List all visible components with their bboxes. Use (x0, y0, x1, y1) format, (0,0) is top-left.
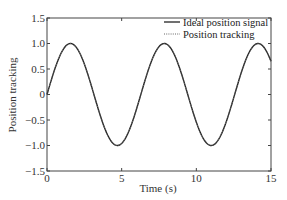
y-axis-label: Position tracking (6, 57, 18, 132)
plot-border (47, 18, 271, 171)
x-tick-label: 0 (44, 172, 50, 184)
x-tick-label: 10 (191, 172, 203, 184)
legend-label-tracking: Position tracking (183, 29, 255, 40)
y-tick-label: −1.5 (25, 165, 45, 177)
y-tick-label: 0 (40, 88, 46, 100)
legend-label-ideal: Ideal position signal (183, 17, 268, 28)
legend: Ideal position signal Position tracking (164, 17, 268, 40)
y-tick-label: 0.5 (31, 63, 45, 75)
y-tick-label: −0.5 (25, 114, 45, 126)
x-axis-ticks: 051015 (44, 18, 277, 184)
ideal-position-line (47, 44, 271, 146)
y-tick-label: −1.0 (25, 139, 45, 151)
series-lines (47, 44, 271, 146)
x-axis-label: Time (s) (139, 182, 177, 195)
position-tracking-line (47, 44, 271, 146)
y-tick-label: 1.5 (31, 12, 45, 24)
position-tracking-chart: −1.5−1.0−0.500.51.01.5 051015 Ideal posi… (0, 0, 287, 200)
y-tick-label: 1.0 (31, 37, 45, 49)
x-tick-label: 5 (119, 172, 125, 184)
x-tick-label: 15 (266, 172, 278, 184)
plot-frame (47, 18, 271, 171)
